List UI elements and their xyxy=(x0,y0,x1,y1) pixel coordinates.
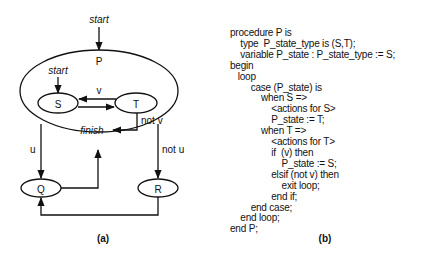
state-q-label: Q xyxy=(37,184,45,195)
transition-not-u-label: not u xyxy=(162,144,184,155)
state-r-label: R xyxy=(154,184,161,195)
transition-q-to-p xyxy=(61,150,98,188)
code-line: exit loop; xyxy=(230,181,395,192)
state-t-label: T xyxy=(133,99,139,110)
code-listing: procedure P is type P_state_type is (S,T… xyxy=(230,28,395,235)
start-label-outer: start xyxy=(89,14,110,25)
transition-not-v-label: not v xyxy=(141,115,163,126)
code-line: end if; xyxy=(230,192,395,203)
code-line: end P; xyxy=(230,224,395,235)
transition-u-label: u xyxy=(30,144,36,155)
code-line: variable P_state : P_state_type := S; xyxy=(230,50,395,61)
code-line: loop xyxy=(230,72,395,83)
state-s-label: S xyxy=(55,99,62,110)
transition-v-label: v xyxy=(97,85,102,96)
start-label-inner: start xyxy=(48,65,69,76)
caption-a: (a) xyxy=(97,233,109,244)
state-p-label: P xyxy=(96,56,103,67)
transition-r-to-q xyxy=(41,197,158,215)
code-line: begin xyxy=(230,61,395,72)
finish-label: finish xyxy=(80,125,104,136)
